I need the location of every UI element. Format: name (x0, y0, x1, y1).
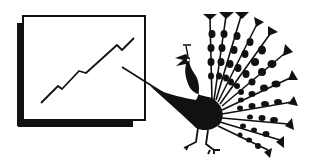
peacock-icon (150, 12, 298, 158)
chart-board-icon (17, 16, 145, 127)
illustration (0, 0, 321, 166)
